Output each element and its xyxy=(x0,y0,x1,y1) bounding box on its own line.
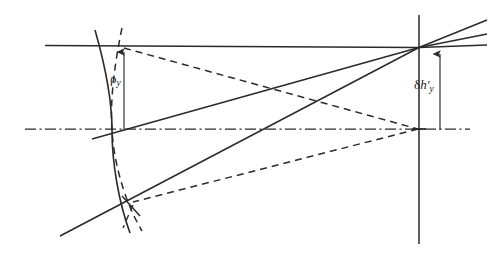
pupil-coordinate-label: ρy xyxy=(110,72,121,89)
figure-canvas xyxy=(0,0,488,254)
transverse-aberration-label: δh′y xyxy=(414,78,434,95)
fan-ray-1 xyxy=(419,20,487,48)
rho-subscript: y xyxy=(117,78,121,88)
h-subscript: y xyxy=(429,84,433,94)
lower-aberrated-ray-dashed xyxy=(133,129,418,202)
upper-marginal-ray-solid xyxy=(45,46,419,48)
axial-ray-solid xyxy=(92,48,419,140)
optical-aberration-figure: ρy δh′y xyxy=(0,0,488,254)
